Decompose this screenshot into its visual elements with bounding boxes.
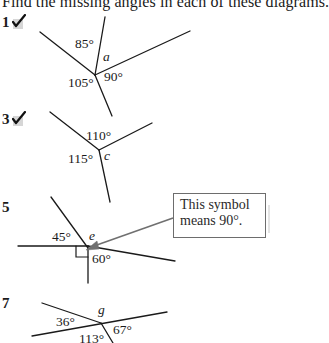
callout-arrow (86, 218, 173, 250)
callout-box: This symbol means 90°. (173, 193, 266, 238)
unknown-angle-c: c (104, 149, 110, 163)
callout-line-2: means 90°. (180, 213, 265, 229)
angle-label-113: 113° (79, 332, 104, 343)
diagram-1-lines (40, 17, 190, 116)
angle-label-36: 36° (56, 315, 75, 329)
unknown-angle-e: e (89, 229, 95, 243)
angle-label-67: 67° (113, 323, 132, 337)
page-edge-fragment (268, 205, 270, 233)
angle-label-90: 90° (104, 70, 123, 84)
diagram-5-lines (18, 197, 175, 283)
diagram-3-lines (50, 112, 152, 202)
angle-label-105: 105° (68, 76, 94, 90)
callout-line-1: This symbol (180, 197, 265, 213)
unknown-angle-g: g (98, 303, 105, 317)
angle-label-85: 85° (75, 37, 94, 51)
angle-label-110: 110° (86, 129, 111, 143)
angle-label-45: 45° (52, 230, 71, 244)
unknown-angle-a: a (103, 50, 110, 64)
angle-label-60: 60° (92, 252, 111, 266)
right-angle-marker (76, 246, 88, 257)
angle-label-115: 115° (68, 152, 93, 166)
